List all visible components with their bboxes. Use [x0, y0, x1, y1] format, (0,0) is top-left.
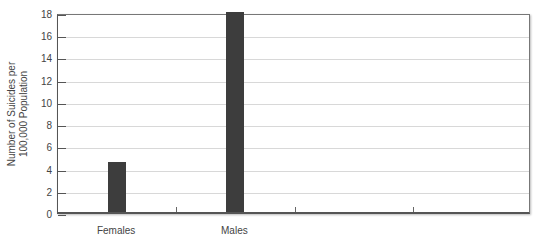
x-tick-mark [176, 207, 177, 212]
plot-area [57, 14, 530, 214]
y-tick-mark [58, 104, 66, 105]
y-tick-mark [58, 171, 66, 172]
y-tick-mark [58, 15, 66, 16]
y-tick-mark [58, 37, 66, 38]
bar-females [108, 162, 126, 212]
y-tick-label: 2 [38, 186, 52, 197]
y-tick-label: 8 [38, 120, 52, 131]
y-tick-mark [58, 126, 66, 127]
gridline [58, 82, 529, 83]
y-tick-mark [58, 215, 66, 216]
x-tick-label: Males [221, 225, 248, 236]
gridline [58, 104, 529, 105]
y-tick-label: 16 [38, 31, 52, 42]
x-tick-mark [413, 207, 414, 212]
gridline [58, 126, 529, 127]
y-tick-mark [58, 82, 66, 83]
y-tick-label: 4 [38, 164, 52, 175]
gridline [58, 171, 529, 172]
x-tick-mark [295, 207, 296, 212]
y-axis-label-container: Number of Suicides per 100,000 Populatio… [0, 14, 36, 214]
y-tick-label: 18 [38, 9, 52, 20]
y-axis-label-line-2: 100,000 Population [18, 62, 30, 167]
y-tick-label: 14 [38, 53, 52, 64]
y-axis-label: Number of Suicides per 100,000 Populatio… [6, 62, 30, 167]
gridline [58, 193, 529, 194]
y-axis-label-line-1: Number of Suicides per [6, 62, 18, 167]
x-tick-label: Females [97, 225, 135, 236]
y-tick-mark [58, 148, 66, 149]
y-tick-label: 12 [38, 75, 52, 86]
gridline [58, 148, 529, 149]
y-tick-mark [58, 59, 66, 60]
gridline [58, 37, 529, 38]
y-tick-label: 6 [38, 142, 52, 153]
bar-males [226, 12, 244, 212]
y-tick-mark [58, 193, 66, 194]
y-tick-label: 0 [38, 209, 52, 220]
gridline [58, 59, 529, 60]
y-tick-label: 10 [38, 97, 52, 108]
